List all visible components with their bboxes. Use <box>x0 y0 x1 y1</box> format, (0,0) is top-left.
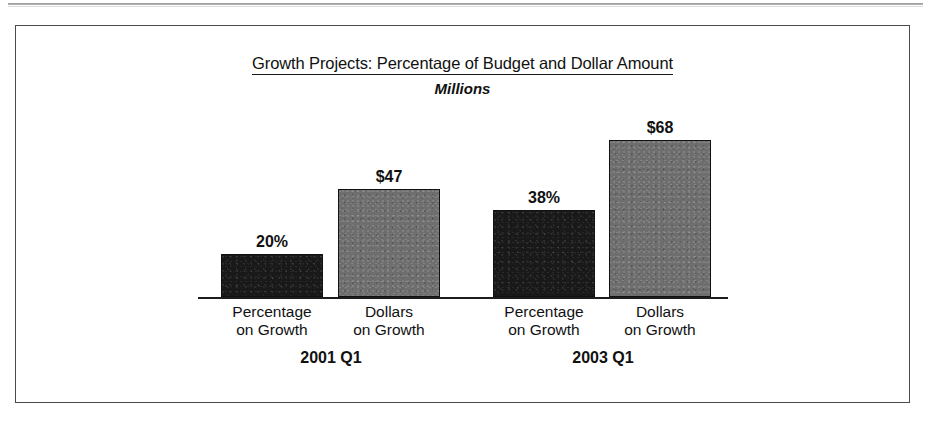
bar-percentage-2003[interactable] <box>493 210 595 297</box>
group-label-2003: 2003 Q1 <box>483 349 723 367</box>
axis-label-dollars-2001: Dollars on Growth <box>328 303 450 339</box>
bar-dollars-2001[interactable] <box>338 189 440 297</box>
bar-value-label: $68 <box>609 119 711 137</box>
bar-value-label: 38% <box>493 189 595 207</box>
axis-label-line2: on Growth <box>599 321 721 339</box>
chart-title-text: Growth Projects: Percentage of Budget an… <box>252 54 673 75</box>
axis-label-line1: Dollars <box>599 303 721 321</box>
axis-label-line2: on Growth <box>328 321 450 339</box>
plot-area: 20% $47 38% $68 Percentage on Growth Dol… <box>198 121 728 297</box>
bar-dollars-2003[interactable] <box>609 140 711 297</box>
bar-value-label: 20% <box>221 233 323 251</box>
bar-value-label: $47 <box>338 168 440 186</box>
axis-label-line1: Dollars <box>328 303 450 321</box>
chart-subtitle: Millions <box>16 80 909 97</box>
x-axis-line <box>198 297 728 299</box>
axis-label-line2: on Growth <box>483 321 605 339</box>
page-top-rule <box>8 3 923 5</box>
figure-frame: Growth Projects: Percentage of Budget an… <box>15 25 910 403</box>
axis-label-line2: on Growth <box>211 321 333 339</box>
axis-label-percentage-2001: Percentage on Growth <box>211 303 333 339</box>
axis-label-dollars-2003: Dollars on Growth <box>599 303 721 339</box>
page-top-rule-shadow <box>8 6 923 7</box>
axis-label-percentage-2003: Percentage on Growth <box>483 303 605 339</box>
bar-percentage-2001[interactable] <box>221 254 323 297</box>
group-label-2001: 2001 Q1 <box>211 349 451 367</box>
axis-label-line1: Percentage <box>483 303 605 321</box>
chart-title: Growth Projects: Percentage of Budget an… <box>16 54 909 73</box>
axis-label-line1: Percentage <box>211 303 333 321</box>
